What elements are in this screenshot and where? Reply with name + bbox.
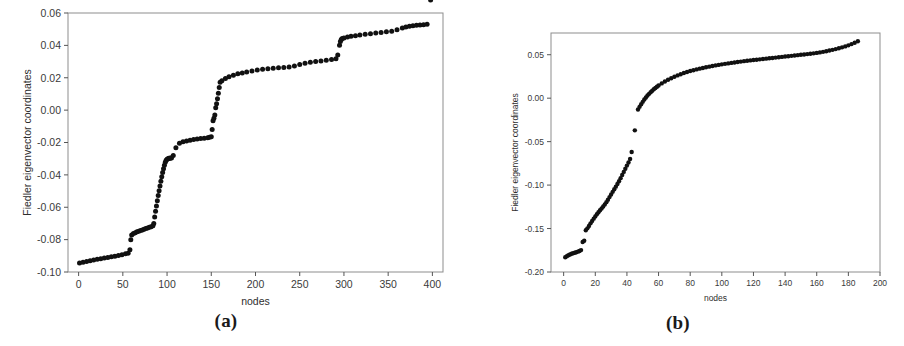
y-axis-tick-label: -0.08	[37, 233, 61, 245]
data-point	[127, 247, 132, 252]
plot-frame	[551, 33, 880, 272]
x-axis-tick-label: 0	[561, 278, 566, 288]
data-point	[231, 73, 236, 78]
data-point	[216, 91, 221, 96]
data-point	[329, 57, 334, 62]
data-point	[240, 70, 245, 75]
data-point	[173, 145, 178, 150]
x-axis-tick-label: 100	[158, 278, 176, 290]
y-axis-title: Fiedler eigenvector coordinates	[510, 93, 520, 212]
x-axis-tick-label: 150	[203, 278, 221, 290]
x-axis-tick-label: 100	[715, 278, 729, 288]
plot-frame	[68, 13, 443, 272]
x-axis-tick-label: 40	[622, 278, 632, 288]
y-axis-tick-label: -0.10	[525, 180, 545, 190]
x-axis-tick-label: 20	[591, 278, 601, 288]
panel-a-plot: -0.10-0.08-0.06-0.04-0.020.000.020.040.0…	[0, 0, 452, 310]
y-axis-tick-label: 0.04	[41, 39, 62, 51]
y-axis-tick-label: -0.06	[37, 201, 61, 213]
panel-b: -0.20-0.15-0.10-0.050.000.05020406080100…	[452, 0, 904, 346]
data-point	[276, 65, 281, 70]
data-point	[210, 127, 215, 132]
data-point	[154, 203, 159, 208]
x-axis-tick-label: 120	[746, 278, 760, 288]
y-axis-tick-label: -0.20	[525, 267, 545, 277]
data-point	[158, 179, 163, 184]
data-point	[265, 66, 270, 71]
data-point	[155, 198, 160, 203]
x-axis-tick-label: 160	[810, 278, 824, 288]
data-point	[357, 33, 362, 38]
data-point	[271, 66, 276, 71]
data-point	[313, 59, 318, 64]
data-point	[292, 64, 297, 69]
data-point	[217, 85, 222, 90]
data-point	[353, 33, 358, 38]
x-axis-tick-label: 400	[424, 278, 442, 290]
data-point	[157, 183, 162, 188]
x-axis-tick-label: 80	[685, 278, 695, 288]
data-point	[244, 69, 249, 74]
y-axis-tick-label: 0.00	[527, 93, 544, 103]
data-point	[297, 62, 302, 67]
data-point	[629, 150, 633, 154]
data-point	[157, 188, 162, 193]
data-point	[428, 0, 433, 3]
y-axis-tick-label: -0.05	[525, 137, 545, 147]
data-point	[425, 22, 430, 27]
data-point	[153, 209, 158, 214]
data-point	[335, 53, 340, 58]
data-point	[349, 34, 354, 39]
data-point	[384, 29, 389, 34]
data-point	[151, 221, 156, 226]
panel-b-plot: -0.20-0.15-0.10-0.050.000.05020406080100…	[452, 0, 904, 310]
data-point	[214, 101, 219, 106]
panel-b-caption: (b)	[452, 312, 904, 334]
panel-a: -0.10-0.08-0.06-0.04-0.020.000.020.040.0…	[0, 0, 452, 346]
y-axis-tick-label: 0.02	[41, 72, 62, 84]
data-point	[156, 193, 161, 198]
x-axis-tick-label: 180	[841, 278, 855, 288]
data-point	[633, 128, 637, 132]
data-point	[395, 27, 400, 32]
x-axis-tick-label: 200	[873, 278, 887, 288]
data-point	[303, 61, 308, 66]
data-point	[318, 58, 323, 63]
data-point	[171, 153, 176, 158]
data-point	[373, 31, 378, 36]
y-axis-tick-label: -0.02	[37, 136, 61, 148]
data-point	[582, 239, 586, 243]
x-axis-tick-label: 140	[778, 278, 792, 288]
x-axis-tick-label: 0	[76, 278, 82, 290]
data-point	[628, 157, 632, 161]
data-point	[159, 174, 164, 179]
data-point	[308, 60, 313, 65]
x-axis-tick-label: 300	[335, 278, 353, 290]
figure-container: -0.10-0.08-0.06-0.04-0.020.000.020.040.0…	[0, 0, 904, 346]
data-point	[212, 112, 217, 117]
data-point	[209, 134, 214, 139]
data-point	[363, 32, 368, 37]
data-point	[152, 214, 157, 219]
y-axis-tick-label: 0.00	[41, 104, 62, 116]
x-axis-title: nodes	[704, 293, 727, 303]
data-point	[324, 58, 329, 63]
data-point	[249, 68, 254, 73]
data-point	[368, 31, 373, 36]
data-point	[255, 67, 260, 72]
data-point	[856, 39, 860, 43]
data-point	[215, 96, 220, 101]
data-point	[281, 65, 286, 70]
data-point	[226, 74, 231, 79]
panel-a-caption: (a)	[0, 310, 452, 332]
data-point	[260, 67, 265, 72]
data-point	[379, 30, 384, 35]
data-point	[235, 71, 240, 76]
x-axis-tick-label: 200	[247, 278, 265, 290]
y-axis-tick-label: 0.05	[527, 50, 544, 60]
data-series	[77, 0, 433, 266]
x-axis-tick-label: 250	[291, 278, 309, 290]
y-axis-tick-label: -0.04	[37, 169, 61, 181]
x-axis-tick-label: 50	[117, 278, 129, 290]
data-point	[389, 29, 394, 34]
